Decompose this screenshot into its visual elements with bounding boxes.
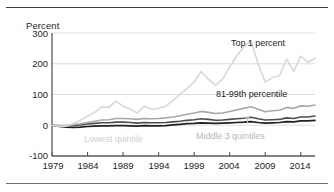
x-tick-label-1989: 1989 [106,160,140,171]
chart-figure: Percent 300 200 100 0 -100 1979 1984 198… [0,0,334,192]
x-tick-label-2009: 2009 [248,160,282,171]
y-tick-label-200: 200 [16,58,48,69]
series-label-top1: Top 1 percent [231,38,285,48]
x-tick-label-1984: 1984 [71,160,105,171]
y-tick-label-0: 0 [16,120,48,131]
x-tick-label-1999: 1999 [177,160,211,171]
bottom-divider-rule [6,183,328,184]
series-label-lowest: Lowest quintile [84,134,143,144]
y-tick-label-300: 300 [16,28,48,39]
data-series [52,41,315,128]
y-tick-label-100: 100 [16,89,48,100]
top-divider-rule [6,7,328,8]
x-tick-label-1979: 1979 [36,160,70,171]
x-tick-label-2004: 2004 [212,160,246,171]
series-label-middle3: Middle 3 quintiles [196,131,265,141]
x-tick-label-1994: 1994 [142,160,176,171]
series-label-81-99th: 81-99th percentile [216,89,287,99]
x-tick-label-2014: 2014 [283,160,317,171]
